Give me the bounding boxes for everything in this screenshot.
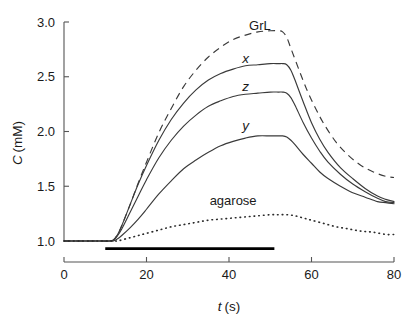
x-tick-label-80: 80	[387, 267, 401, 282]
y-axis-title-symbol: C	[10, 155, 25, 165]
y-axis-tick-labels: 1.01.52.02.53.0	[37, 15, 55, 249]
curve-label-y: y	[241, 118, 250, 133]
x-tick-label-40: 40	[222, 267, 236, 282]
x-axis-ticks	[64, 257, 394, 262]
line-chart-svg: 1.01.52.02.53.0 020406080 GrLxzyagarose …	[0, 0, 415, 323]
curve-label-GrL: GrL	[249, 18, 271, 33]
curve-GrL	[64, 31, 394, 241]
curve-z	[64, 92, 394, 241]
y-tick-label-1.0: 1.0	[37, 234, 55, 249]
svg-text:t(s): t(s)	[218, 299, 241, 314]
y-axis: 1.01.52.02.53.0	[37, 15, 69, 249]
y-tick-label-3.0: 3.0	[37, 15, 55, 30]
svg-text:C(mM): C(mM)	[10, 121, 25, 165]
curve-x	[64, 64, 394, 242]
x-tick-label-0: 0	[60, 267, 67, 282]
y-axis-title: C(mM)	[10, 121, 25, 165]
y-axis-ticks	[64, 22, 69, 241]
curve-label-agarose: agarose	[210, 193, 257, 208]
chart-figure: 1.01.52.02.53.0 020406080 GrLxzyagarose …	[0, 0, 415, 323]
x-tick-label-20: 20	[139, 267, 153, 282]
x-axis: 020406080	[60, 257, 401, 282]
x-axis-title-symbol: t	[218, 299, 223, 314]
x-axis-title: t(s)	[218, 299, 241, 314]
curve-label-z: z	[241, 79, 249, 94]
y-tick-label-1.5: 1.5	[37, 179, 55, 194]
y-tick-label-2.5: 2.5	[37, 69, 55, 84]
curve-labels: GrLxzyagarose	[210, 18, 271, 208]
x-axis-title-unit: (s)	[225, 299, 241, 314]
y-tick-label-2.0: 2.0	[37, 124, 55, 139]
curve-label-x: x	[241, 51, 250, 66]
x-axis-tick-labels: 020406080	[60, 267, 401, 282]
data-curves	[64, 31, 394, 242]
x-tick-label-60: 60	[304, 267, 318, 282]
curve-agarose	[64, 215, 394, 241]
y-axis-title-unit: (mM)	[10, 121, 25, 152]
